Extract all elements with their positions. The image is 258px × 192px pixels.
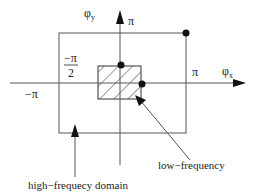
x-pos-tick-label: π [192, 65, 198, 79]
neg-half-numerator: −π [64, 51, 77, 65]
inner-top-dot [118, 62, 125, 69]
corner-dot [183, 30, 190, 37]
low-frequency-label: low−frequency [158, 159, 225, 171]
y-axis-arrow-icon [116, 10, 124, 24]
high-frequency-label: high−frequecy domain [28, 179, 128, 191]
neg-half-denominator: 2 [68, 66, 74, 80]
high-frequency-arrow-icon [71, 124, 79, 137]
x-axis-label: φx [222, 64, 233, 80]
inner-right-dot [139, 81, 146, 88]
x-neg-tick-label: −π [25, 87, 38, 101]
low-frequency-pointer [140, 100, 190, 160]
y-axis-label: φy [84, 6, 95, 22]
frequency-diagram: φy π φx π −π −π 2 low−frequency high−fre… [0, 0, 258, 192]
y-pos-tick-label: π [128, 14, 134, 28]
x-axis-arrow-icon [233, 79, 246, 87]
